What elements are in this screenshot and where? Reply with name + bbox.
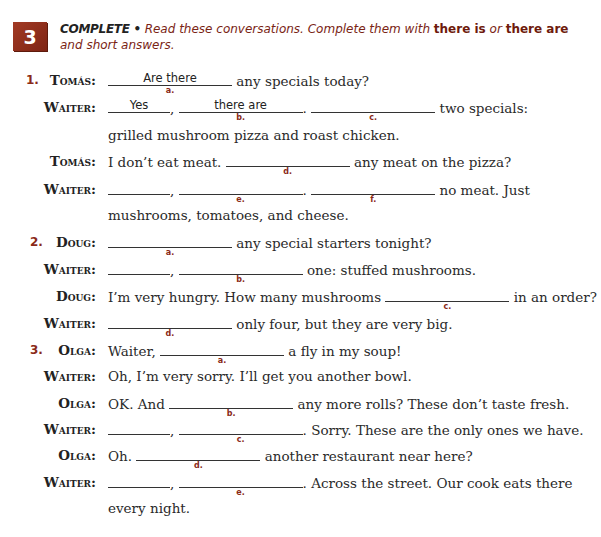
instruction-text: or [486, 22, 506, 36]
blank-2d[interactable]: d. [108, 314, 232, 329]
blank-1f[interactable]: f. [311, 180, 435, 195]
line-text: any meat on the pizza? [354, 154, 511, 170]
speaker-label: Tomás: [10, 152, 96, 170]
blank-1a[interactable]: Are therea. [108, 71, 232, 86]
blank-label: c. [179, 435, 303, 444]
blank-label: d. [108, 329, 232, 338]
line-text: no meat. Just [439, 182, 529, 198]
instruction-lead: COMPLETE • [60, 22, 141, 36]
blank-answer: Yes [108, 96, 170, 114]
blank-label: c. [311, 113, 435, 122]
blank-label: e. [179, 488, 303, 497]
line-text: I’m very hungry. How many mushrooms [108, 289, 381, 305]
speaker-label: Doug: [10, 233, 96, 251]
blank-3a[interactable]: a. [160, 341, 284, 356]
blank-label: a. [108, 248, 232, 257]
blank-1b[interactable]: there areb. [179, 98, 303, 113]
line-text: . Sorry. These are the only ones we have… [303, 422, 584, 438]
exercise-instruction: COMPLETE • Read these conversations. Com… [60, 21, 580, 53]
blank-label: b. [169, 409, 293, 418]
keyword-there-is: there is [434, 22, 486, 36]
blank-2b[interactable]: b. [179, 260, 303, 275]
instruction-text: and short answers. [60, 38, 174, 52]
dialogue-line: I’m very hungry. How many mushrooms c. i… [108, 287, 597, 306]
speaker-label: Waiter: [10, 420, 96, 438]
blank-label: c. [385, 302, 509, 311]
line-text: Oh. [108, 448, 132, 464]
blank-3-short[interactable] [108, 420, 170, 435]
line-text: . Across the street. Our cook eats there [303, 475, 573, 491]
line-text: only four, but they are very big. [236, 316, 452, 332]
blank-2a[interactable]: a. [108, 233, 232, 248]
line-text: any specials today? [236, 73, 369, 89]
blank-label: d. [136, 461, 260, 470]
speaker-label: Waiter: [10, 473, 96, 491]
dialogue-line: , b. one: stuffed mushrooms. [108, 260, 476, 279]
speaker-label: Tomás: [10, 71, 96, 89]
blank-label: f. [311, 195, 435, 204]
line-text: in an order? [514, 289, 597, 305]
blank-1-short[interactable] [108, 180, 170, 195]
line-text: any more rolls? These don’t taste fresh. [297, 396, 569, 412]
blank-label: d. [226, 167, 350, 176]
blank-label: b. [179, 275, 303, 284]
blank-answer: there are [179, 96, 303, 114]
blank-label: a. [108, 86, 232, 95]
line-text: two specials: [439, 100, 528, 116]
dialogue-line: , e.. f. no meat. Just [108, 180, 530, 199]
line-text: Waiter, [108, 343, 156, 359]
speaker-label: Waiter: [10, 260, 96, 278]
blank-3-short[interactable] [108, 473, 170, 488]
dialogue-line: a. any special starters tonight? [108, 233, 432, 252]
blank-label: e. [179, 195, 303, 204]
line-text: one: stuffed mushrooms. [307, 262, 476, 278]
blank-1e[interactable]: e. [179, 180, 303, 195]
dialogue-line: , e.. Across the street. Our cook eats t… [108, 473, 572, 492]
dialogue-line: Are therea. any specials today? [108, 71, 369, 90]
exercise-number-badge: 3 [13, 22, 47, 51]
dialogue-line: OK. And b. any more rolls? These don’t t… [108, 394, 569, 413]
blank-1c[interactable]: c. [311, 98, 435, 113]
speaker-label: Olga: [10, 341, 96, 359]
speaker-label: Olga: [10, 394, 96, 412]
blank-answer: Are there [108, 69, 232, 87]
dialogue-line: Oh. d. another restaurant near here? [108, 446, 473, 465]
speaker-label: Waiter: [10, 367, 96, 385]
blank-3e[interactable]: e. [179, 473, 303, 488]
blank-3c[interactable]: c. [179, 420, 303, 435]
speaker-label: Waiter: [10, 98, 96, 116]
speaker-label: Olga: [10, 446, 96, 464]
dialogue-line: Waiter, a. a fly in my soup! [108, 341, 401, 360]
dialogue-line: every night. [108, 499, 190, 517]
blank-label: a. [160, 356, 284, 365]
blank-2c[interactable]: c. [385, 287, 509, 302]
blank-3b[interactable]: b. [169, 394, 293, 409]
dialogue-line: Yes, there areb.. c. two specials: [108, 98, 528, 117]
blank-1-short[interactable]: Yes [108, 98, 170, 113]
dialogue-line: , c.. Sorry. These are the only ones we … [108, 420, 584, 439]
line-text: a fly in my soup! [288, 343, 401, 359]
instruction-text: Read these conversations. Complete them … [141, 22, 434, 36]
keyword-there-are: there are [506, 22, 569, 36]
dialogue-line: grilled mushroom pizza and roast chicken… [108, 126, 400, 144]
speaker-label: Waiter: [10, 314, 96, 332]
dialogue-line: Oh, I’m very sorry. I’ll get you another… [108, 367, 412, 385]
speaker-label: Doug: [10, 287, 96, 305]
line-text: I don’t eat meat. [108, 154, 221, 170]
dialogue-line: mushrooms, tomatoes, and cheese. [108, 206, 349, 224]
blank-3d[interactable]: d. [136, 446, 260, 461]
blank-2-short[interactable] [108, 260, 170, 275]
blank-1d[interactable]: d. [226, 152, 350, 167]
speaker-label: Waiter: [10, 180, 96, 198]
line-text: any special starters tonight? [236, 235, 431, 251]
dialogue-line: I don’t eat meat. d. any meat on the piz… [108, 152, 511, 171]
blank-label: b. [179, 113, 303, 122]
line-text: OK. And [108, 396, 165, 412]
line-text: another restaurant near here? [265, 448, 473, 464]
dialogue-line: d. only four, but they are very big. [108, 314, 452, 333]
